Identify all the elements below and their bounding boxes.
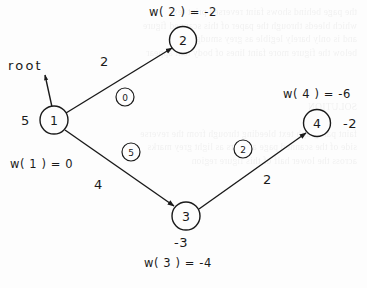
weight-label-node-4: w( 4 ) = -6 [283, 89, 351, 101]
edge-3-4-badge-label: 2 [240, 145, 246, 155]
node-1-value: 5 [21, 114, 30, 127]
edge-1-3-badge: 5 [122, 143, 140, 161]
node-4-value: -2 [343, 117, 357, 130]
node-1: 1 [40, 106, 68, 134]
figure-canvas: the page behind shows faint reversed pri… [0, 0, 367, 288]
edge-1-2-badge: 0 [116, 88, 134, 106]
root-arrow [45, 75, 52, 107]
edge-1-3-arrow [65, 130, 174, 206]
root-label: root [8, 59, 43, 72]
node-3-value: -3 [174, 236, 188, 249]
weight-label-node-1: w( 1 ) = 0 [10, 159, 73, 171]
node-4: 4 [304, 110, 331, 137]
node-3: 3 [172, 202, 200, 230]
weight-label-node-2: w( 2 ) = -2 [149, 7, 217, 19]
node-3-label: 3 [182, 209, 190, 224]
node-4-label: 4 [313, 116, 321, 131]
node-2: 2 [170, 27, 197, 54]
edge-1-2-cost: 2 [100, 55, 108, 68]
node-2-label: 2 [179, 33, 187, 48]
edge-3-4-cost: 2 [263, 173, 271, 186]
edge-3-4-badge: 2 [234, 140, 252, 158]
node-1-label: 1 [50, 113, 58, 128]
weight-label-node-3: w( 3 ) = -4 [144, 258, 212, 270]
edge-1-2-badge-label: 0 [122, 93, 128, 103]
edge-1-3-cost: 4 [94, 178, 102, 191]
edge-1-3-badge-label: 5 [128, 148, 134, 158]
edge-3-4-arrow [199, 133, 306, 209]
